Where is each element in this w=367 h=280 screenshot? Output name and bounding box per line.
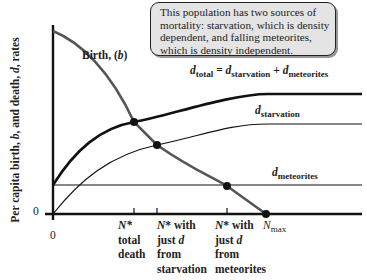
x-label-nstar-meteorites: N* with just d from meteorites [215,218,266,276]
d-starvation-label: dstarvation [255,104,300,119]
annotation-callout: This population has two sources of morta… [150,2,336,56]
y-zero-label: 0 [33,205,39,217]
callout-line: which is density independent. [160,44,335,57]
d-total-label: dtotal = dstarvation + dmeteorites [190,64,328,79]
x-zero-label: 0 [50,229,56,241]
y-axis-title: Per capita birth, b, and death, d, rates [9,37,21,222]
x-label-nmax: Nmax [263,218,286,237]
x-label-nstar-total: N* total death [118,218,145,262]
equilibrium-starvation-point [153,141,161,149]
equilibrium-total-point [130,118,138,126]
d-meteorites-label: dmeteorites [272,166,318,181]
callout-line: dependent, and falling meteorites, [160,31,335,44]
birth-label: Birth, (b) [82,49,127,61]
nmax-point [262,210,270,218]
x-label-nstar-starvation: N* with just d from starvation [157,218,207,276]
equilibrium-meteorites-point [223,182,231,190]
callout-line: This population has two sources of [160,6,335,19]
callout-line: mortality: starvation, which is density [160,19,335,32]
